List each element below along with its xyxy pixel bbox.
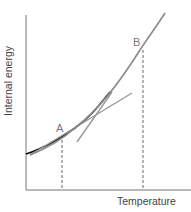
point-b-label: B <box>133 37 140 48</box>
energy-curve <box>26 92 110 154</box>
diagram-canvas <box>0 0 191 212</box>
energy-curve-gray <box>30 13 165 155</box>
tangent-b <box>77 92 112 142</box>
y-axis-label: Internal energy <box>3 46 14 116</box>
x-axis-label: Temperature <box>117 196 176 207</box>
point-a-label: A <box>56 123 63 134</box>
